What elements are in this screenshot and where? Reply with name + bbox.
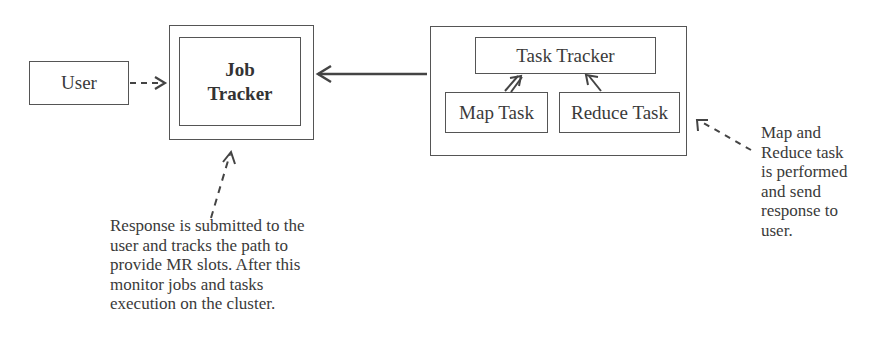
job-tracker-note: Response is submitted to the user and tr… xyxy=(110,216,350,314)
note-to-jobtracker-arrow xyxy=(211,154,230,218)
reduce-to-tasktracker-arrow xyxy=(589,76,601,91)
note-to-taskgroup-arrow xyxy=(700,121,751,150)
arrowhead-icon xyxy=(223,152,235,164)
task-tracker-note: Map and Reduce task is performed and sen… xyxy=(761,123,881,240)
